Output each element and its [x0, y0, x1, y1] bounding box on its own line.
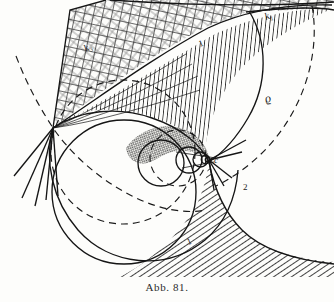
label-c: c [214, 155, 218, 165]
label-curve-2: 2 [243, 182, 248, 192]
node-ray-b [22, 128, 53, 198]
figure-page: k3 k1 ϱ c 1 2 1 Abb. 81. [0, 0, 334, 302]
geometry-figure: k3 k1 ϱ c 1 2 1 [0, 0, 334, 302]
figure-caption: Abb. 81. [0, 281, 334, 293]
label-rho: ϱ [263, 91, 273, 106]
